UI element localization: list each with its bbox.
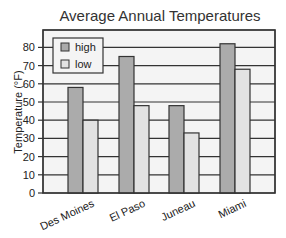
bar-low-el-paso [134,106,149,193]
y-tick-label: 80 [23,41,35,53]
y-axis-ticks: 01020304050607080 [23,41,43,199]
legend-swatch-high [61,43,69,51]
bar-high-des-moines [68,87,83,193]
y-axis-label: Temperature (°F) [12,70,24,153]
y-tick-label: 60 [23,78,35,90]
x-category-label: Juneau [159,197,197,223]
y-tick-label: 10 [23,169,35,181]
x-category-label: El Paso [107,197,146,224]
bar-low-miami [235,69,250,193]
y-tick-label: 70 [23,60,35,72]
legend-swatch-low [61,60,69,68]
y-tick-label: 30 [23,132,35,144]
legend-label-low: low [75,58,92,70]
chart-title: Average Annual Temperatures [59,7,260,24]
x-category-label: Des Moines [38,197,96,233]
y-tick-label: 40 [23,114,35,126]
bar-chart: Average Annual Temperatures 010203040506… [0,0,286,238]
y-tick-label: 0 [29,187,35,199]
bar-low-des-moines [83,120,98,193]
x-category-label: Miami [216,197,248,220]
legend-label-high: high [75,41,96,53]
y-tick-label: 50 [23,96,35,108]
bar-high-miami [220,44,235,193]
bar-high-juneau [169,106,184,193]
y-tick-label: 20 [23,151,35,163]
bar-low-juneau [184,133,199,193]
bar-high-el-paso [119,57,134,194]
x-axis-categories: Des MoinesEl PasoJuneauMiami [38,197,248,233]
legend: high low [53,38,103,73]
